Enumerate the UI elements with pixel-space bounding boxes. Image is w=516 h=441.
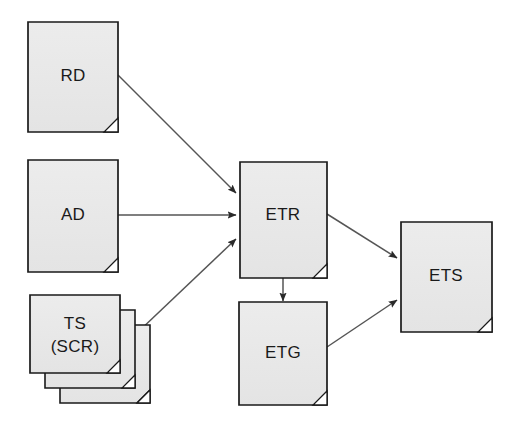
edge-etg-to-ets <box>327 300 397 347</box>
node-ad[interactable]: AD <box>28 160 118 272</box>
node-etr[interactable]: ETR <box>240 162 327 278</box>
node-rd-label: RD <box>60 66 85 85</box>
diagram-canvas: TS (SCR) RD AD ETR ETG <box>0 0 516 441</box>
edge-rd-to-etr <box>118 75 236 193</box>
node-ts[interactable]: TS (SCR) <box>30 295 150 403</box>
node-rd[interactable]: RD <box>28 22 118 132</box>
node-ets[interactable]: ETS <box>401 222 492 332</box>
node-ts-label-line1: TS <box>64 314 86 333</box>
edge-etr-to-ets <box>327 214 397 258</box>
node-ets-label: ETS <box>429 266 463 285</box>
ts-stack-sheet-front <box>30 295 120 373</box>
node-etg[interactable]: ETG <box>239 302 327 405</box>
flow-diagram: TS (SCR) RD AD ETR ETG <box>0 0 516 441</box>
edge-ts-to-etr <box>137 239 236 333</box>
node-ts-label-line2: (SCR) <box>51 337 100 356</box>
node-etr-label: ETR <box>266 205 301 224</box>
node-ad-label: AD <box>61 205 85 224</box>
node-etg-label: ETG <box>265 343 301 362</box>
